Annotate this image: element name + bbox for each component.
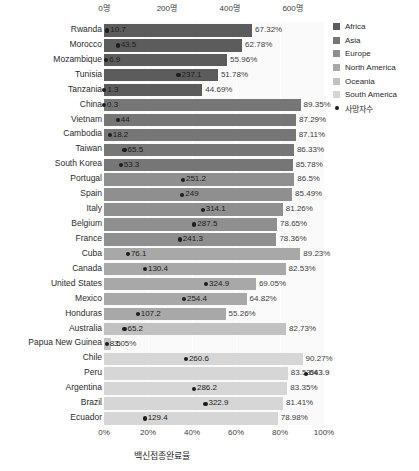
axis-top-tick: 400명	[220, 2, 240, 13]
row-label-morocco: Morocco	[0, 39, 102, 49]
row-label-peru: Peru	[0, 367, 102, 377]
row-label-honduras: Honduras	[0, 308, 102, 318]
death-count-label: 65.2	[127, 324, 143, 333]
bar-value-label: 78.36%	[279, 234, 306, 243]
bar	[104, 263, 286, 275]
bar	[104, 114, 296, 126]
gridline	[324, 22, 325, 425]
bar-value-label: 85.78%	[296, 160, 323, 169]
row-label-belgium: Belgium	[0, 218, 102, 228]
legend-swatch	[333, 64, 340, 71]
death-count-label: 287.5	[197, 219, 217, 228]
legend-item-oceania[interactable]: Oceania	[333, 74, 419, 88]
row-label-portugal: Portugal	[0, 173, 102, 183]
legend-label: Oceania	[345, 77, 375, 86]
bar-value-label: 82.73%	[289, 324, 316, 333]
legend-item-south-america[interactable]: South America	[333, 88, 419, 102]
death-count-label: 6.9	[109, 55, 120, 64]
death-count-label: 249	[185, 189, 198, 198]
legend-swatch	[333, 78, 340, 85]
bar-value-label: 85.49%	[295, 189, 322, 198]
bar-value-label: 83.35%	[290, 383, 317, 392]
axis-bottom-tick: 60%	[228, 428, 244, 437]
bar-value-label: 62.78%	[245, 40, 272, 49]
legend-swatch	[333, 37, 340, 44]
death-count-label: 0.3	[107, 100, 118, 109]
bar	[104, 293, 247, 305]
bar-value-label: 82.53%	[289, 264, 316, 273]
bar	[104, 367, 288, 379]
legend-item-europe[interactable]: Europe	[333, 47, 419, 61]
legend-label: North America	[345, 63, 396, 72]
death-count-label: 18.2	[113, 130, 129, 139]
row-label-australia: Australia	[0, 323, 102, 333]
legend-item-asia[interactable]: Asia	[333, 34, 419, 48]
legend-swatch	[333, 23, 340, 30]
axis-bottom-tick: 20%	[140, 428, 156, 437]
bar-value-label: 81.26%	[286, 204, 313, 213]
death-count-dot	[201, 208, 205, 212]
legend-item-사망자수[interactable]: 사망자수	[333, 102, 419, 116]
death-count-dot	[105, 342, 109, 346]
bar	[104, 203, 283, 215]
bar-value-label: 69.05%	[259, 279, 286, 288]
row-label-argentina: Argentina	[0, 382, 102, 392]
death-count-label: 107.2	[141, 309, 161, 318]
legend-item-north-america[interactable]: North America	[333, 61, 419, 75]
death-count-label: 129.4	[148, 413, 168, 422]
bar-value-label: 87.11%	[299, 130, 326, 139]
bar	[104, 24, 252, 36]
death-count-dot	[192, 387, 196, 391]
row-label-papua-new-guinea: Papua New Guinea	[0, 337, 102, 347]
legend-label: 사망자수	[345, 103, 373, 114]
bar-value-label: 86.5%	[297, 174, 320, 183]
death-count-label: 324.9	[209, 279, 229, 288]
bar-value-label: 64.82%	[250, 294, 277, 303]
row-label-cambodia: Cambodia	[0, 128, 102, 138]
row-label-italy: Italy	[0, 203, 102, 213]
row-label-south-korea: South Korea	[0, 158, 102, 168]
chart-row: Ecuador78.98%129.4	[0, 410, 324, 427]
row-label-france: France	[0, 233, 102, 243]
bar-value-label: 87.29%	[299, 115, 326, 124]
death-count-label: 643.9	[309, 368, 329, 377]
row-label-tanzania: Tanzania	[0, 84, 102, 94]
bar	[104, 412, 278, 424]
x-axis-label: 백신접종완료율	[0, 449, 324, 462]
chart-rows: Rwanda67.32%10.7Morocco62.78%43.5Mozambi…	[0, 22, 324, 425]
death-count-label: 65.5	[128, 145, 144, 154]
death-count-label: 254.4	[187, 294, 207, 303]
death-count-label: 130.4	[148, 264, 168, 273]
death-count-label: 314.1	[206, 204, 226, 213]
legend-label: Asia	[345, 36, 361, 45]
bar-value-label: 44.69%	[205, 85, 232, 94]
legend-label: South America	[345, 90, 397, 99]
bar	[104, 129, 296, 141]
death-count-dot	[178, 237, 182, 241]
legend-swatch	[333, 50, 340, 57]
bar-value-label: 86.33%	[297, 145, 324, 154]
bar	[104, 278, 256, 290]
death-count-dot	[108, 133, 112, 137]
death-count-label: 44	[121, 115, 130, 124]
legend-label: Europe	[345, 49, 371, 58]
death-count-label: 43.5	[121, 40, 137, 49]
bar-value-label: 89.23%	[303, 249, 330, 258]
death-count-dot	[203, 402, 207, 406]
row-label-ecuador: Ecuador	[0, 412, 102, 422]
legend-item-africa[interactable]: Africa	[333, 20, 419, 34]
death-count-dot	[119, 163, 123, 167]
chart-root: 0명200명400명600명 Rwanda67.32%10.7Morocco62…	[0, 0, 419, 471]
bar	[104, 54, 227, 66]
bar-value-label: 78.65%	[280, 219, 307, 228]
legend: AfricaAsiaEuropeNorth AmericaOceaniaSout…	[333, 20, 419, 115]
legend-dot-icon	[335, 106, 339, 110]
row-label-mexico: Mexico	[0, 293, 102, 303]
row-label-mozambique: Mozambique	[0, 54, 102, 64]
death-count-dot	[143, 416, 147, 420]
death-count-dot	[136, 312, 140, 316]
axis-top: 0명200명400명600명	[104, 2, 324, 18]
row-label-china: China	[0, 99, 102, 109]
legend-dot-marker	[333, 106, 340, 110]
axis-top-tick: 600명	[282, 2, 302, 13]
